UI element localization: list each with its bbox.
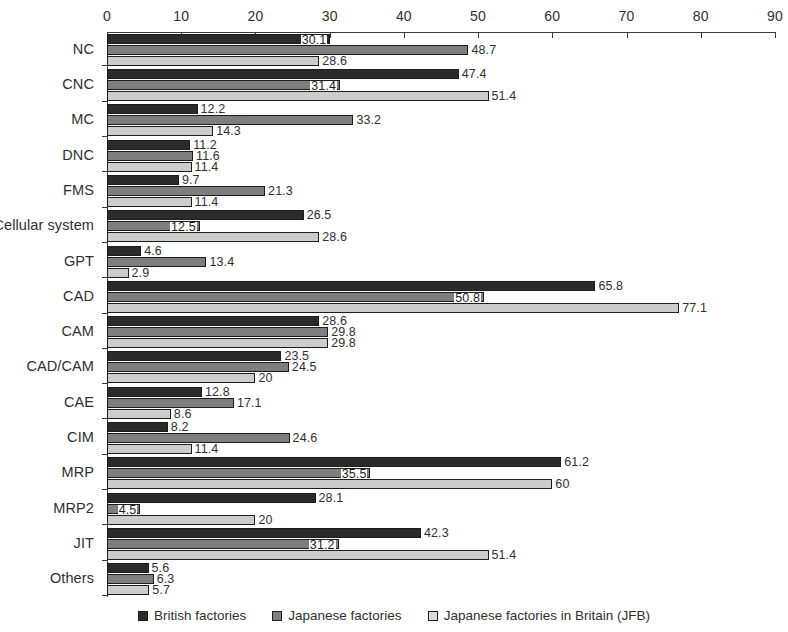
- bar-value-label: 8.6: [174, 407, 192, 421]
- bar[interactable]: 51.4: [107, 91, 489, 101]
- bar[interactable]: 50.8: [107, 292, 484, 302]
- bar[interactable]: 28.6: [107, 316, 319, 326]
- bar[interactable]: 65.8: [107, 281, 595, 291]
- bar[interactable]: 29.8: [107, 338, 328, 348]
- bar-value-label: 2.9: [132, 265, 150, 279]
- bar[interactable]: 35.5: [107, 468, 370, 478]
- legend-swatch-icon: [272, 611, 282, 621]
- bar-value-label: 26.5: [307, 208, 332, 222]
- bar[interactable]: 11.4: [107, 444, 192, 454]
- bar-value-label: 28.6: [322, 230, 347, 244]
- bar-row: 20: [107, 515, 775, 525]
- bar-row: 30.1: [107, 34, 775, 44]
- plot-area: 30.148.728.647.431.451.412.233.214.311.2…: [107, 32, 775, 597]
- bar-value-label: 51.4: [492, 89, 517, 103]
- bar[interactable]: 11.6: [107, 151, 193, 161]
- bar[interactable]: 4.5: [107, 504, 140, 514]
- bar[interactable]: 8.2: [107, 422, 168, 432]
- bar-group: 28.14.520: [107, 493, 775, 525]
- legend-item[interactable]: Japanese factories: [272, 608, 401, 623]
- category-label: CAD: [63, 288, 94, 304]
- bar[interactable]: 12.2: [107, 104, 198, 114]
- bar-group: 26.512.528.6: [107, 210, 775, 242]
- bar-value-label: 30.1: [301, 35, 328, 45]
- bar-row: 24.5: [107, 362, 775, 372]
- bar[interactable]: 14.3: [107, 126, 213, 136]
- bar[interactable]: 42.3: [107, 528, 421, 538]
- legend-label: Japanese factories in Britain (JFB): [444, 608, 650, 623]
- bar-row: 5.7: [107, 585, 775, 595]
- bar-value-label: 20: [258, 371, 272, 385]
- category-label: Cellular system: [0, 217, 94, 233]
- bar-row: 60: [107, 479, 775, 489]
- bar[interactable]: 2.9: [107, 268, 129, 278]
- bar[interactable]: 51.4: [107, 550, 489, 560]
- bar-value-label: 11.4: [195, 195, 219, 209]
- bar-value-label: 77.1: [682, 301, 707, 315]
- bar[interactable]: 8.6: [107, 409, 171, 419]
- bar[interactable]: 13.4: [107, 257, 206, 267]
- bar[interactable]: 48.7: [107, 45, 468, 55]
- x-axis-tick-label: 90: [767, 8, 783, 24]
- bar[interactable]: 5.7: [107, 585, 149, 595]
- bar[interactable]: 12.8: [107, 387, 202, 397]
- bar-row: 51.4: [107, 91, 775, 101]
- bar[interactable]: 28.1: [107, 493, 316, 503]
- bar[interactable]: 11.2: [107, 140, 190, 150]
- bar[interactable]: 20: [107, 373, 255, 383]
- bar[interactable]: 11.4: [107, 162, 192, 172]
- bar[interactable]: 31.2: [107, 539, 339, 549]
- bar[interactable]: 6.3: [107, 574, 154, 584]
- bar[interactable]: 23.5: [107, 351, 281, 361]
- bar[interactable]: 77.1: [107, 303, 679, 313]
- bar-value-label: 51.4: [492, 548, 517, 562]
- legend-item[interactable]: Japanese factories in Britain (JFB): [428, 608, 650, 623]
- bar-row: 4.5: [107, 504, 775, 514]
- y-axis-tick: [102, 207, 107, 208]
- bar-row: 11.4: [107, 197, 775, 207]
- bar[interactable]: 11.4: [107, 197, 192, 207]
- bar-chart: 0102030405060708090 NCCNCMCDNCFMSCellula…: [0, 0, 788, 632]
- x-axis-tick-label: 70: [619, 8, 635, 24]
- bar-row: 17.1: [107, 398, 775, 408]
- category-label: CAE: [64, 394, 94, 410]
- bar[interactable]: 12.5: [107, 221, 200, 231]
- bar-row: 8.2: [107, 422, 775, 432]
- bar[interactable]: 28.6: [107, 56, 319, 66]
- legend-label: British factories: [154, 608, 246, 623]
- bar-group: 4.613.42.9: [107, 246, 775, 278]
- bar-group: 5.66.35.7: [107, 563, 775, 595]
- bar-row: 12.8: [107, 387, 775, 397]
- bar[interactable]: 31.4: [107, 80, 340, 90]
- bar[interactable]: 47.4: [107, 69, 459, 79]
- bar-value-label: 14.3: [216, 124, 241, 138]
- bar-row: 29.8: [107, 327, 775, 337]
- y-axis-tick: [102, 171, 107, 172]
- bar-group: 9.721.311.4: [107, 175, 775, 207]
- bar-group: 12.817.18.6: [107, 387, 775, 419]
- bar[interactable]: 5.6: [107, 563, 149, 573]
- bar[interactable]: 26.5: [107, 210, 304, 220]
- bar[interactable]: 17.1: [107, 398, 234, 408]
- bar[interactable]: 61.2: [107, 457, 561, 467]
- legend-item[interactable]: British factories: [138, 608, 246, 623]
- bar[interactable]: 4.6: [107, 246, 141, 256]
- category-label: CAM: [61, 323, 94, 339]
- category-label: FMS: [63, 182, 94, 198]
- bar[interactable]: 21.3: [107, 186, 265, 196]
- bar-value-label: 61.2: [564, 455, 589, 469]
- bar-group: 65.850.877.1: [107, 281, 775, 313]
- bar[interactable]: 29.8: [107, 327, 328, 337]
- bar[interactable]: 9.7: [107, 175, 179, 185]
- y-axis-tick: [102, 348, 107, 349]
- bar-value-label: 31.2: [309, 540, 336, 550]
- bar-group: 12.233.214.3: [107, 104, 775, 136]
- bar[interactable]: 60: [107, 479, 552, 489]
- bar-row: 35.5: [107, 468, 775, 478]
- bar-value-label: 50.8: [454, 293, 481, 303]
- bar[interactable]: 30.1: [107, 34, 330, 44]
- bar-row: 47.4: [107, 69, 775, 79]
- bar[interactable]: 28.6: [107, 232, 319, 242]
- y-axis-tick: [102, 418, 107, 419]
- bar[interactable]: 20: [107, 515, 255, 525]
